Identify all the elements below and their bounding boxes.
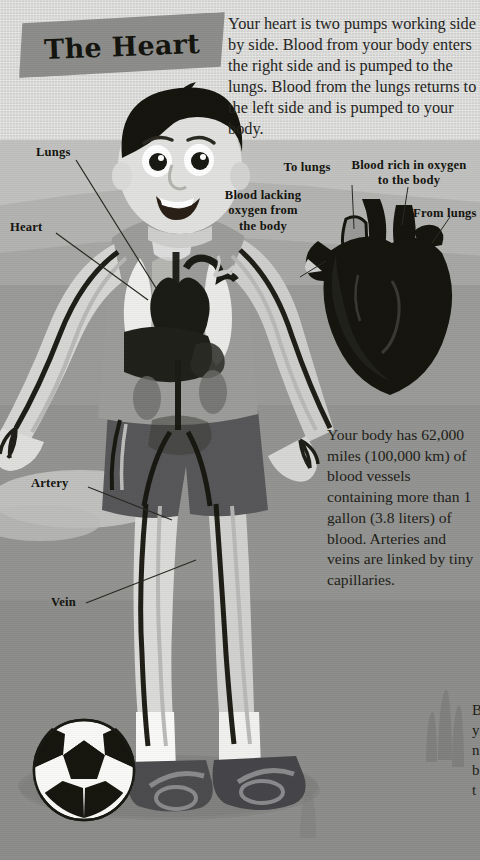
fact-box-text: Your body has 62,000 miles (100,000 km) … [327,425,475,591]
leader-vein [86,560,196,603]
title-banner: The Heart [17,12,227,78]
leader-artery [88,487,172,520]
leader-lungs [76,160,156,288]
leader-heart [56,233,148,300]
label-heart: Heart [10,220,42,235]
clipped-edge-text: B y n b t [472,700,480,800]
label-from-lungs: From lungs [413,206,477,221]
label-lungs: Lungs [36,145,71,160]
label-vein: Vein [51,595,76,610]
label-blood-rich-in-oxygen: Blood rich in oxygen to the body [342,158,476,189]
intro-paragraph: Your heart is two pumps working side by … [228,14,478,140]
page-root: The Heart Your heart is two pumps workin… [0,0,480,860]
label-to-lungs: To lungs [275,160,339,175]
label-artery: Artery [31,476,69,491]
label-blood-lacking-oxygen: Blood lacking oxygen from the body [215,188,311,234]
